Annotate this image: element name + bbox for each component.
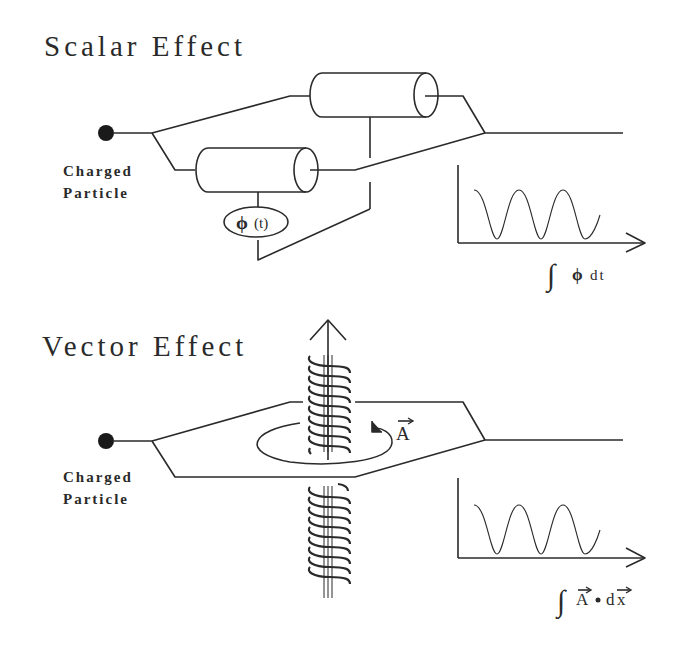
svg-text:(t): (t)	[254, 215, 268, 232]
vector-interferometer-paths	[114, 402, 623, 477]
vector-charged-particle-icon	[98, 433, 114, 449]
scalar-charged-particle-icon	[98, 125, 114, 141]
scalar-interferometer-paths	[114, 96, 623, 170]
scalar-integral-symbol: ∫	[545, 258, 557, 294]
svg-text:d: d	[606, 590, 615, 609]
scalar-bottom-cylinder-icon	[196, 148, 318, 192]
scalar-top-cylinder-icon	[310, 73, 438, 117]
potential-phi-label: ϕ	[236, 212, 248, 233]
scalar-potential-wiring	[224, 117, 370, 260]
solenoid-upper-icon	[309, 355, 350, 454]
vector-phase-graph	[458, 478, 645, 567]
scalar-phase-graph	[458, 165, 645, 252]
diagram-canvas: ϕ (t) ∫ ϕ dt A ∫ A d x	[0, 0, 677, 653]
svg-text:x: x	[617, 590, 626, 609]
vector-potential-a-label: A	[396, 423, 410, 444]
scalar-integral-phi: ϕ	[572, 265, 583, 284]
svg-text:dt: dt	[590, 267, 606, 283]
vector-potential-loop	[257, 421, 392, 464]
vector-integral-symbol: ∫	[555, 584, 567, 620]
solenoid-lower-icon	[309, 484, 350, 598]
